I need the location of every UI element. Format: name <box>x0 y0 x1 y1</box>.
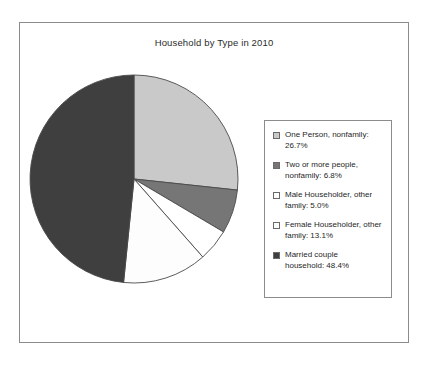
legend-label-male-householder: Male Householder, other family: 5.0% <box>285 190 372 211</box>
legend-label-married-couple: Married couple household: 48.4% <box>285 250 349 271</box>
legend-line-1: Female Householder, other <box>285 220 382 229</box>
legend-line-1: Married couple <box>285 250 338 259</box>
legend-line-2: family: 13.1% <box>285 231 333 240</box>
legend-line-2: household: 48.4% <box>285 261 349 270</box>
legend-swatch-married-couple <box>273 252 280 259</box>
legend-line-2: nonfamily: 6.8% <box>285 171 342 180</box>
legend-swatch-two-or-more <box>273 162 280 169</box>
legend-label-one-person: One Person, nonfamily: 26.7% <box>285 130 369 151</box>
legend-line-2: family: 5.0% <box>285 201 329 210</box>
pie-slice-group <box>30 75 238 283</box>
legend-item-one-person[interactable]: One Person, nonfamily: 26.7% <box>273 130 385 151</box>
pie-chart-svg <box>26 71 242 287</box>
legend-label-two-or-more: Two or more people, nonfamily: 6.8% <box>285 160 358 181</box>
legend-swatch-one-person <box>273 132 280 139</box>
chart-legend: One Person, nonfamily: 26.7% Two or more… <box>264 120 392 298</box>
legend-item-female-householder[interactable]: Female Householder, other family: 13.1% <box>273 220 385 241</box>
legend-line-1: Two or more people, <box>285 160 358 169</box>
pie-slice[interactable] <box>134 75 238 190</box>
legend-item-male-householder[interactable]: Male Householder, other family: 5.0% <box>273 190 385 211</box>
legend-line-1: One Person, nonfamily: <box>285 130 369 139</box>
chart-frame: Household by Type in 2010 One Person, no… <box>19 22 409 343</box>
pie-slice[interactable] <box>30 75 134 282</box>
legend-swatch-male-householder <box>273 192 280 199</box>
legend-swatch-female-householder <box>273 222 280 229</box>
legend-label-female-householder: Female Householder, other family: 13.1% <box>285 220 382 241</box>
legend-line-2: 26.7% <box>285 141 308 150</box>
legend-item-two-or-more[interactable]: Two or more people, nonfamily: 6.8% <box>273 160 385 181</box>
legend-item-married-couple[interactable]: Married couple household: 48.4% <box>273 250 385 271</box>
legend-line-1: Male Householder, other <box>285 190 372 199</box>
